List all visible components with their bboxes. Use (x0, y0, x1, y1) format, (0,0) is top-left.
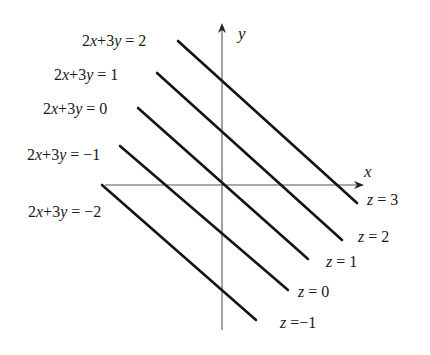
equation-label-2: 2x+3y = 0 (43, 101, 107, 117)
x-axis-label: x (364, 163, 372, 180)
level-lines-group (102, 41, 357, 320)
z-label-2: z = 1 (326, 254, 357, 270)
equation-label-4: 2x+3y = −2 (28, 204, 101, 220)
level-line-0 (178, 41, 357, 203)
y-axis-label: y (238, 25, 246, 42)
level-line-1 (157, 73, 342, 240)
z-label-4: z =−1 (280, 315, 316, 331)
equation-label-3: 2x+3y = −1 (27, 147, 100, 163)
equation-label-0: 2x+3y = 2 (82, 33, 146, 49)
z-label-0: z = 3 (367, 192, 398, 208)
z-label-1: z = 2 (358, 229, 389, 245)
level-line-4 (102, 185, 256, 320)
z-label-3: z = 0 (298, 284, 329, 300)
equation-label-1: 2x+3y = 1 (54, 67, 118, 83)
